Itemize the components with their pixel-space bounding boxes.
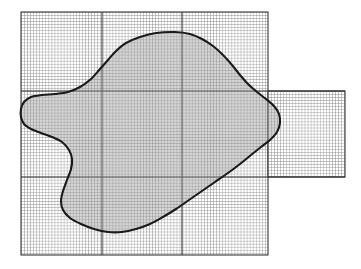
- mesh-diagram-canvas: [0, 0, 361, 269]
- mesh-diagram-figure: [0, 0, 361, 269]
- grid-block-mesh: [268, 91, 345, 177]
- grid-block: [268, 91, 345, 177]
